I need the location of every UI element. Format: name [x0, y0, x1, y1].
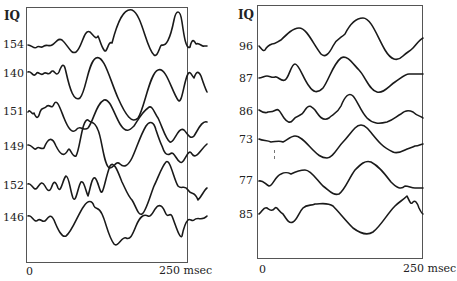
- x-tick-start: 0: [259, 263, 266, 276]
- waveform-trace-iq-87: [259, 57, 423, 92]
- waveform-trace-iq-154: [28, 10, 207, 56]
- waveform-plot: [0, 0, 228, 281]
- x-tick-end: 250 msec: [159, 264, 212, 277]
- waveform-trace-iq-152: [28, 162, 207, 215]
- waveform-trace-iq-151: [28, 100, 207, 142]
- waveform-trace-iq-146: [28, 202, 207, 245]
- x-tick-end: 250 msec: [403, 262, 456, 275]
- waveform-trace-iq-140: [28, 58, 207, 120]
- waveform-plot: [229, 0, 457, 281]
- waveform-trace-iq-77: [259, 161, 423, 194]
- panel-low-iq: IQ 96 87 86 73 77 85 0 250 msec: [229, 0, 457, 281]
- waveform-trace-iq-73: [259, 125, 423, 158]
- panel-high-iq: IQ 154 140 151 149 152 146 0 250 msec: [0, 0, 228, 281]
- waveform-trace-iq-149: [28, 120, 207, 168]
- waveform-trace-iq-86: [259, 94, 423, 123]
- x-tick-start: 0: [26, 265, 33, 278]
- waveform-trace-iq-85: [259, 196, 423, 234]
- waveform-trace-iq-96: [259, 18, 423, 59]
